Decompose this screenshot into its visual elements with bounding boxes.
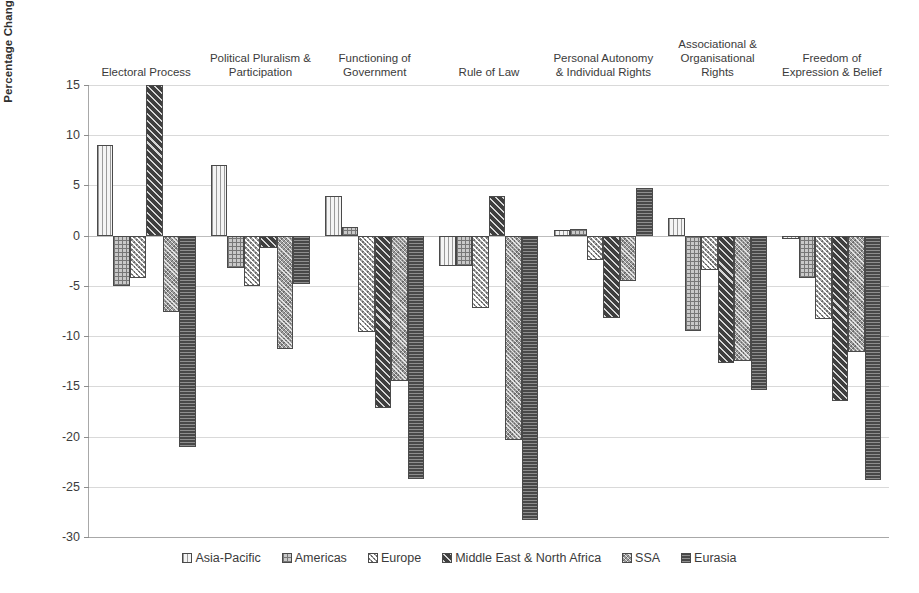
legend-item[interactable]: Americas (282, 551, 347, 565)
bar-americas[interactable] (113, 236, 130, 286)
bar-americas[interactable] (227, 236, 244, 268)
legend-label: Eurasia (694, 551, 736, 565)
y-tick-label: -15 (62, 379, 80, 393)
bar-eurasia[interactable] (408, 236, 425, 479)
bar-eurasia[interactable] (179, 236, 196, 447)
bar-group: Freedom of Expression & Belief (775, 85, 889, 537)
bar-middle-east-north-africa[interactable] (832, 236, 849, 402)
legend-item[interactable]: Middle East & North Africa (442, 551, 601, 565)
category-label: Associational & Organisational Rights (653, 37, 783, 79)
y-tick-label: -30 (62, 530, 80, 544)
bar-ssa[interactable] (848, 236, 865, 353)
legend-label: Asia-Pacific (195, 551, 260, 565)
category-label: Functioning of Government (310, 51, 440, 79)
legend-item[interactable]: Asia-Pacific (182, 551, 260, 565)
bar-europe[interactable] (701, 236, 718, 270)
legend-swatch (182, 553, 192, 563)
bar-ssa[interactable] (391, 236, 408, 382)
legend-label: Europe (381, 551, 421, 565)
bar-asia-pacific[interactable] (668, 218, 685, 236)
bar-ssa[interactable] (505, 236, 522, 440)
legend-swatch (681, 553, 691, 563)
bar-eurasia[interactable] (293, 236, 310, 284)
legend-item[interactable]: Eurasia (681, 551, 736, 565)
gridline (89, 537, 889, 538)
chart-page: Percentage Change in Score over the Last… (0, 0, 919, 593)
category-label: Rule of Law (424, 65, 554, 79)
legend-swatch (622, 553, 632, 563)
y-axis-title: Percentage Change in Score over the Last… (2, 0, 24, 130)
bar-middle-east-north-africa[interactable] (489, 196, 506, 235)
bar-europe[interactable] (587, 236, 604, 260)
y-tick-label: 5 (73, 178, 80, 192)
category-label: Electoral Process (81, 65, 211, 79)
bar-middle-east-north-africa[interactable] (718, 236, 735, 364)
chart-legend: Asia-PacificAmericasEuropeMiddle East & … (0, 551, 919, 565)
category-label: Political Pluralism & Participation (195, 51, 325, 79)
bar-group: Rule of Law (432, 85, 546, 537)
legend-label: Americas (295, 551, 347, 565)
category-label: Personal Autonomy & Individual Rights (538, 51, 668, 79)
bar-europe[interactable] (130, 236, 147, 278)
plot-area: 151050-5-10-15-20-25-30Electoral Process… (88, 85, 889, 537)
legend-item[interactable]: Europe (368, 551, 421, 565)
category-label: Freedom of Expression & Belief (767, 51, 897, 79)
bar-asia-pacific[interactable] (325, 196, 342, 235)
legend-swatch (282, 553, 292, 563)
legend-label: Middle East & North Africa (455, 551, 601, 565)
bar-ssa[interactable] (277, 236, 294, 350)
bar-group: Associational & Organisational Rights (660, 85, 774, 537)
bar-middle-east-north-africa[interactable] (603, 236, 620, 318)
bar-middle-east-north-africa[interactable] (375, 236, 392, 409)
y-tick-label: -5 (69, 279, 80, 293)
y-tick-label: 10 (66, 128, 80, 142)
bar-asia-pacific[interactable] (554, 230, 571, 236)
bar-eurasia[interactable] (636, 188, 653, 235)
bar-asia-pacific[interactable] (782, 236, 799, 239)
bar-middle-east-north-africa[interactable] (260, 236, 277, 248)
bar-americas[interactable] (456, 236, 473, 266)
bar-ssa[interactable] (163, 236, 180, 312)
legend-swatch (442, 553, 452, 563)
bar-asia-pacific[interactable] (439, 236, 456, 266)
bar-ssa[interactable] (734, 236, 751, 362)
legend-item[interactable]: SSA (622, 551, 660, 565)
bar-eurasia[interactable] (751, 236, 768, 391)
bar-group: Personal Autonomy & Individual Rights (546, 85, 660, 537)
y-tick-label: 15 (66, 78, 80, 92)
y-tick-label: 0 (73, 229, 80, 243)
bar-middle-east-north-africa[interactable] (146, 85, 163, 236)
y-tick-label: -10 (62, 329, 80, 343)
bar-americas[interactable] (685, 236, 702, 331)
bar-asia-pacific[interactable] (211, 165, 228, 235)
bar-group: Political Pluralism & Participation (203, 85, 317, 537)
bar-americas[interactable] (570, 229, 587, 236)
y-tick-mark (84, 537, 89, 538)
bar-americas[interactable] (799, 236, 816, 278)
bar-asia-pacific[interactable] (97, 145, 114, 235)
bar-americas[interactable] (342, 227, 359, 236)
legend-swatch (368, 553, 378, 563)
bar-group: Electoral Process (89, 85, 203, 537)
bar-europe[interactable] (358, 236, 375, 332)
y-tick-label: -25 (62, 480, 80, 494)
legend-label: SSA (635, 551, 660, 565)
bar-group: Functioning of Government (318, 85, 432, 537)
bar-europe[interactable] (244, 236, 261, 286)
y-tick-label: -20 (62, 430, 80, 444)
bar-europe[interactable] (815, 236, 832, 319)
bar-eurasia[interactable] (522, 236, 539, 520)
bar-eurasia[interactable] (865, 236, 882, 480)
bar-ssa[interactable] (620, 236, 637, 281)
bar-europe[interactable] (472, 236, 489, 308)
